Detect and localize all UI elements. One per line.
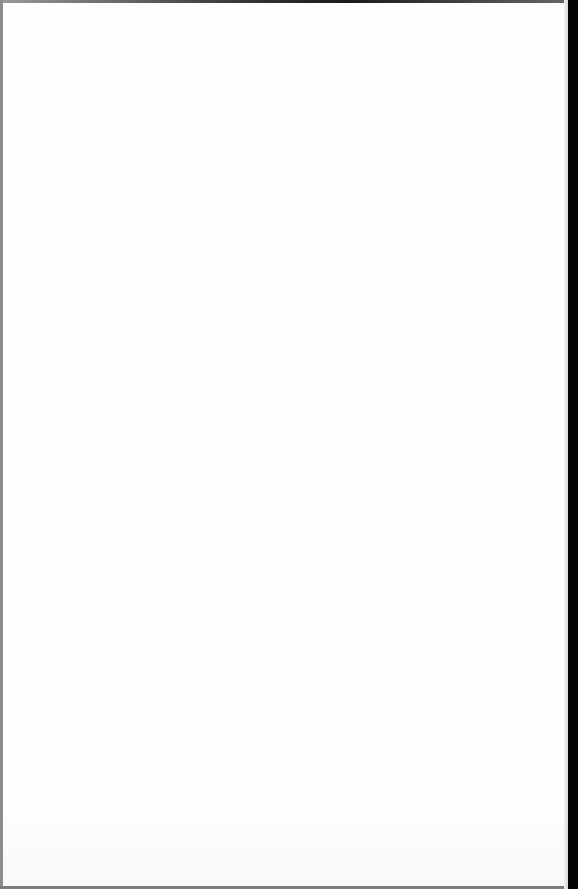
- scan-border-top: [0, 0, 578, 3]
- scan-border-right: [568, 0, 578, 889]
- blank-page: [0, 0, 578, 889]
- scan-border-left: [0, 0, 3, 889]
- page-shadow: [0, 806, 568, 886]
